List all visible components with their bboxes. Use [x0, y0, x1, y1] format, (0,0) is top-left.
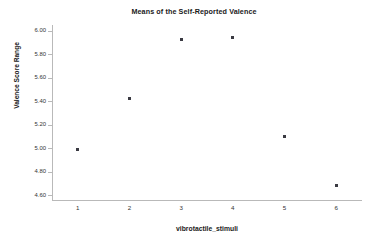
x-tick-label: 6 — [324, 204, 348, 211]
x-axis-title: vibrotactile_stimuli — [52, 225, 362, 232]
y-tick-label: 4.80 — [16, 168, 46, 174]
x-tick-label: 4 — [221, 204, 245, 211]
y-tick-label: 6.00 — [16, 27, 46, 33]
x-tick-label: 5 — [273, 204, 297, 211]
x-tick-label: 2 — [118, 204, 142, 211]
y-tick-label: 5.40 — [16, 98, 46, 104]
x-tick-label: 3 — [169, 204, 193, 211]
data-point — [76, 148, 79, 151]
data-point — [231, 36, 234, 39]
y-tick-label: 5.00 — [16, 145, 46, 151]
data-point — [283, 135, 286, 138]
data-point — [180, 38, 183, 41]
scatter-chart: Means of the Self-Reported Valence Valen… — [0, 0, 388, 242]
x-tick-label: 1 — [66, 204, 90, 211]
y-tick-label: 4.60 — [16, 192, 46, 198]
data-point — [128, 97, 131, 100]
y-tick-label: 5.80 — [16, 51, 46, 57]
chart-title: Means of the Self-Reported Valence — [0, 7, 388, 16]
y-tick-label: 5.20 — [16, 121, 46, 127]
plot-area — [52, 25, 362, 201]
data-point — [335, 184, 338, 187]
y-tick-label: 5.60 — [16, 74, 46, 80]
